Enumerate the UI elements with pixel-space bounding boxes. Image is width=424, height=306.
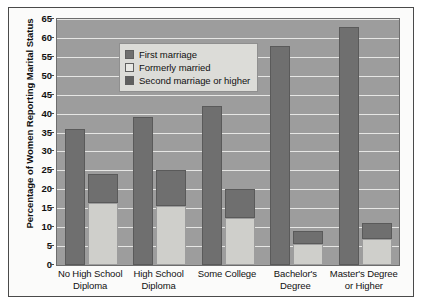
y-axis-tick-label: 10	[6, 221, 52, 232]
plot-area: First marriage Formerly married Second m…	[56, 18, 400, 266]
bar-formerly-married	[293, 244, 323, 265]
y-axis-tick-label: 30	[6, 145, 52, 156]
x-axis-label-line: Some College	[189, 268, 265, 280]
y-axis-tick-label: 40	[6, 107, 52, 118]
bar-second-marriage-or-higher	[362, 223, 392, 238]
x-axis-label-line: No High School	[52, 268, 128, 280]
legend-label: Second marriage or higher	[139, 75, 250, 86]
x-axis-category-label: Some College	[189, 268, 265, 280]
bar-first-marriage	[65, 129, 85, 265]
x-axis-category-label: High SchoolDiploma	[120, 268, 196, 291]
x-axis-label-line: Degree	[257, 280, 333, 292]
x-axis-label-line: or Higher	[326, 280, 402, 292]
bar-second-marriage-or-higher	[156, 170, 186, 206]
bar-second-marriage-or-higher	[293, 231, 323, 244]
bar-formerly-married	[362, 239, 392, 265]
y-axis-tick-label: 20	[6, 183, 52, 194]
y-axis-tick-label: 0	[6, 259, 52, 270]
bar-first-marriage	[133, 117, 153, 265]
legend-swatch-icon	[125, 50, 134, 59]
legend-label: Formerly married	[139, 62, 211, 73]
legend-item-first-marriage: First marriage	[125, 48, 250, 61]
y-axis-tick-label: 5	[6, 240, 52, 251]
legend-item-formerly-married: Formerly married	[125, 61, 250, 74]
y-axis-tick-label: 15	[6, 202, 52, 213]
y-axis-tick-mark	[50, 37, 54, 38]
x-axis-label-line: Master's Degree	[326, 268, 402, 280]
x-axis-category-label: No High SchoolDiploma	[52, 268, 128, 291]
y-axis-tick-mark	[50, 132, 54, 133]
y-axis-tick-mark	[50, 226, 54, 227]
bar-first-marriage	[339, 27, 359, 265]
bar-first-marriage	[270, 46, 290, 266]
y-axis-tick-mark	[50, 207, 54, 208]
x-axis-label-line: High School	[120, 268, 196, 280]
y-axis-ticks: 05101520253035404550556065	[0, 18, 52, 264]
x-axis-category-label: Bachelor'sDegree	[257, 268, 333, 291]
y-axis-tick-mark	[50, 75, 54, 76]
x-axis-category-label: Master's Degreeor Higher	[326, 268, 402, 291]
y-axis-tick-mark	[50, 188, 54, 189]
x-axis-label-line: Bachelor's	[257, 268, 333, 280]
y-axis-tick-label: 60	[6, 31, 52, 42]
y-axis-tick-label: 50	[6, 69, 52, 80]
gridline	[57, 19, 399, 20]
legend-label: First marriage	[139, 49, 197, 60]
y-axis-tick-label: 65	[6, 13, 52, 24]
y-axis-tick-mark	[50, 113, 54, 114]
chart-legend: First marriage Formerly married Second m…	[119, 43, 258, 92]
bar-formerly-married	[225, 218, 255, 265]
y-axis-tick-mark	[50, 150, 54, 151]
bar-second-marriage-or-higher	[225, 189, 255, 217]
y-axis-tick-mark	[50, 169, 54, 170]
y-axis-tick-label: 55	[6, 50, 52, 61]
y-axis-tick-mark	[50, 94, 54, 95]
bar-second-marriage-or-higher	[88, 174, 118, 202]
x-axis-label-line: Diploma	[120, 280, 196, 292]
legend-swatch-icon	[125, 63, 134, 72]
y-axis-tick-label: 35	[6, 126, 52, 137]
chart-figure: Percentage of Women Reporting Marital St…	[0, 0, 424, 306]
x-axis-label-line: Diploma	[52, 280, 128, 292]
y-axis-tick-mark	[50, 56, 54, 57]
bar-formerly-married	[88, 203, 118, 265]
y-axis-tick-mark	[50, 18, 54, 19]
x-axis-labels: No High SchoolDiplomaHigh SchoolDiplomaS…	[56, 268, 400, 298]
y-axis-tick-mark	[50, 264, 54, 265]
y-axis-tick-label: 25	[6, 164, 52, 175]
bar-first-marriage	[202, 106, 222, 265]
legend-item-second-marriage: Second marriage or higher	[125, 74, 250, 87]
y-axis-tick-label: 45	[6, 88, 52, 99]
bar-formerly-married	[156, 206, 186, 265]
legend-swatch-icon	[125, 76, 134, 85]
y-axis-tick-mark	[50, 245, 54, 246]
